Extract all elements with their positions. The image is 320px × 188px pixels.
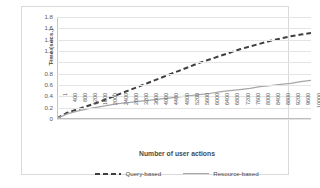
y-axis-tick-label: 0 — [31, 116, 53, 122]
x-axis-tick-label: 2000 — [110, 93, 120, 119]
x-axis-tick-label: 2400 — [121, 93, 131, 119]
legend-item-resource-based: Resource-based — [183, 170, 258, 177]
legend-item-query-based: Query-based — [95, 170, 161, 177]
x-axis-tick-label: 1200 — [90, 93, 100, 119]
x-axis-tick-label: 7200 — [243, 93, 253, 119]
gridline — [57, 62, 311, 63]
y-axis-tick-label: 0.4 — [31, 93, 53, 99]
gridline — [57, 40, 311, 41]
y-axis-tick-label: 1.4 — [31, 37, 53, 43]
x-axis-tick-label: 1600 — [100, 93, 110, 119]
y-axis-tick-label: 1.8 — [31, 14, 53, 20]
gridline — [57, 17, 311, 18]
x-axis-tick-label: 6800 — [232, 93, 242, 119]
x-axis-tick-label: 9600 — [303, 93, 311, 119]
legend-label-query-based: Query-based — [125, 170, 161, 177]
y-axis-tick-label: 0.8 — [31, 71, 53, 77]
x-axis-tick-label: 5600 — [202, 93, 212, 119]
x-axis-tick-label: 4000 — [161, 93, 171, 119]
x-axis-tick-label: 8000 — [263, 93, 273, 119]
x-axis-tick-label: 800 — [80, 93, 90, 119]
y-axis-tick-label: 1.6 — [31, 25, 53, 31]
y-axis-line — [57, 17, 58, 119]
gridline — [57, 74, 311, 75]
x-axis-tick-label: 8400 — [273, 93, 283, 119]
legend-label-resource-based: Resource-based — [213, 170, 258, 177]
x-axis-tick-label: 2800 — [131, 93, 141, 119]
x-axis-tick-label: 1 — [60, 93, 70, 119]
x-axis-tick-label: 5200 — [192, 93, 202, 119]
x-axis-tick-label: 4400 — [171, 93, 181, 119]
gridline — [57, 51, 311, 52]
x-axis-tick-label: 400 — [70, 93, 80, 119]
gridline — [57, 28, 311, 29]
x-axis-tick-label: 6000 — [212, 93, 222, 119]
x-axis-tick-label: 9200 — [293, 93, 303, 119]
x-axis-tick-label: 7600 — [253, 93, 263, 119]
x-axis-title: Number of user actions — [43, 150, 311, 157]
y-axis-tick-label: 0.2 — [31, 105, 53, 111]
chart-container: Time (secs.) 1.81.61.41.210.80.60.40.20 … — [21, 6, 289, 175]
y-axis-tick-label: 1 — [31, 59, 53, 65]
legend-swatch-solid-icon — [183, 173, 209, 175]
x-axis-tick-label: 6400 — [222, 93, 232, 119]
x-axis-tick-label: 3200 — [141, 93, 151, 119]
chart-legend: Query-based Resource-based — [43, 167, 311, 179]
y-axis-tick-label: 1.2 — [31, 48, 53, 54]
x-axis-tick-labels: 1400800120016002000240028003200360040004… — [57, 119, 311, 147]
x-axis-tick-label: 8800 — [283, 93, 293, 119]
y-axis-tick-label: 0.6 — [31, 82, 53, 88]
gridline — [57, 85, 311, 86]
x-axis-tick-label: 3600 — [151, 93, 161, 119]
legend-swatch-dashed-icon — [95, 173, 121, 175]
x-axis-tick-label: 4800 — [182, 93, 192, 119]
